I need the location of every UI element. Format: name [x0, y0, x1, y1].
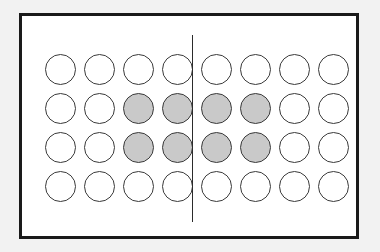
grid-circle [201, 132, 232, 163]
circle-grid [22, 16, 356, 236]
grid-circle [201, 54, 232, 85]
grid-circle [84, 54, 115, 85]
grid-circle [279, 132, 310, 163]
grid-circle [240, 54, 271, 85]
grid-circle [123, 132, 154, 163]
grid-circle [240, 132, 271, 163]
figure-page [0, 0, 380, 252]
grid-circle [45, 93, 76, 124]
grid-circle [162, 54, 193, 85]
grid-circle [123, 54, 154, 85]
grid-circle [240, 93, 271, 124]
grid-circle [84, 93, 115, 124]
grid-circle [123, 93, 154, 124]
grid-circle [201, 171, 232, 202]
grid-circle [162, 171, 193, 202]
grid-circle [318, 93, 349, 124]
grid-circle [123, 171, 154, 202]
grid-circle [318, 132, 349, 163]
grid-circle [45, 54, 76, 85]
grid-circle [45, 132, 76, 163]
grid-circle [45, 171, 76, 202]
grid-circle [318, 54, 349, 85]
grid-circle [84, 171, 115, 202]
grid-circle [84, 132, 115, 163]
grid-circle [240, 171, 271, 202]
grid-circle [279, 171, 310, 202]
grid-circle [201, 93, 232, 124]
grid-circle [279, 54, 310, 85]
grid-circle [162, 93, 193, 124]
symmetry-line [192, 35, 193, 222]
figure-frame [19, 13, 359, 239]
grid-circle [318, 171, 349, 202]
grid-circle [279, 93, 310, 124]
grid-circle [162, 132, 193, 163]
